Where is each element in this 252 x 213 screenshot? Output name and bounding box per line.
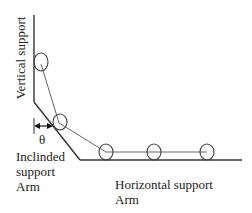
inclined-label-line-2: support: [16, 164, 65, 179]
inclined-label-line-3: Arm: [16, 179, 65, 194]
roller-2: [53, 114, 67, 130]
inclined-support-label: Inclinded support Arm: [16, 149, 65, 194]
horizontal-support-label: Horizontal support Arm: [115, 177, 213, 207]
horizontal-label-line-1: Horizontal support: [115, 177, 213, 192]
rod-segment-2: [59, 123, 106, 152]
inclined-label-line-1: Inclinded: [16, 149, 65, 164]
theta-label: θ: [39, 132, 45, 147]
roller-1: [34, 53, 48, 71]
theta-arrowhead-left-icon: [34, 123, 40, 129]
vertical-support-label: Vertical support: [13, 17, 28, 100]
horizontal-label-line-2: Arm: [115, 192, 213, 207]
support-arm-diagram: Vertical support θ Inclinded support Arm…: [0, 0, 252, 213]
